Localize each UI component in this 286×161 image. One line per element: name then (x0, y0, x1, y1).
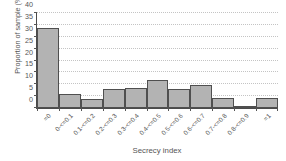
x-axis-tick-label: 0.5-<=0.6 (160, 112, 184, 136)
x-axis-tick-label: 0.8-<=0.9 (226, 112, 250, 136)
x-axis-tick-label: 0.1-<=0.2 (72, 112, 96, 136)
bar (256, 98, 278, 108)
x-axis-tick (103, 108, 104, 111)
y-axis-tick-label: 20 (25, 47, 33, 56)
y-axis-tick-label: 25 (25, 35, 33, 44)
bar-cell (190, 13, 212, 108)
bar-cell (234, 13, 256, 108)
y-axis-tick-label: 35 (25, 11, 33, 20)
y-axis-tick-label: 40 (25, 0, 33, 9)
bar (103, 89, 125, 108)
bar (81, 99, 103, 109)
bar (168, 89, 190, 108)
bar (147, 80, 169, 108)
bar-cell (147, 13, 169, 108)
x-axis-tick-label: 0.6-<=0.7 (182, 112, 206, 136)
x-axis-title: Secrecy index (36, 146, 278, 155)
plot-area: 0510152025303540 (36, 13, 278, 109)
bar-cell (212, 13, 234, 108)
y-axis-tick-label: 30 (25, 23, 33, 32)
x-axis-tick (147, 108, 148, 111)
x-axis-tick-labels: =00-<=0.10.1-<=0.20.2-<=0.30.3-<=0.40.4-… (36, 112, 278, 146)
bar (125, 88, 147, 108)
y-axis-tick-label: 5 (29, 83, 33, 92)
bar (234, 106, 256, 108)
x-axis-tick (256, 108, 257, 111)
x-axis-tick (59, 108, 60, 111)
x-axis-tick-label: 0.2-<=0.3 (94, 112, 118, 136)
x-axis-tick-label: 0.3-<=0.4 (116, 112, 140, 136)
x-axis-tick (190, 108, 191, 111)
x-axis-tick (168, 108, 169, 111)
bar-cell (256, 13, 278, 108)
bar-cell (81, 13, 103, 108)
y-axis-tick-label: 10 (25, 71, 33, 80)
bar-chart-figure: Proportion of sample (%) 051015202530354… (0, 0, 286, 161)
bar (37, 28, 59, 108)
bar (190, 85, 212, 108)
bar-cell (103, 13, 125, 108)
bar (59, 94, 81, 108)
x-axis-tick (81, 108, 82, 111)
bar-cell (37, 13, 59, 108)
x-axis-tick-label: =1 (262, 112, 272, 122)
y-axis-tick-label: 15 (25, 59, 33, 68)
x-axis-tick (212, 108, 213, 111)
x-axis-tick-label: 0.7-<=0.8 (204, 112, 228, 136)
x-axis-tick-label: =0 (42, 112, 52, 122)
x-axis-tick (37, 108, 38, 111)
bar-series (37, 13, 278, 108)
y-axis-title: Proportion of sample (%) (12, 0, 24, 84)
bar-cell (59, 13, 81, 108)
x-axis-tick (277, 108, 278, 111)
bar (212, 98, 234, 108)
x-axis-tick-label: 0-<=0.1 (53, 112, 74, 133)
bar-cell (168, 13, 190, 108)
x-axis-tick-label: 0.4-<=0.5 (138, 112, 162, 136)
x-axis-tick (125, 108, 126, 111)
x-axis-tick (234, 108, 235, 111)
y-axis-tick-label: 0 (29, 95, 33, 104)
bar-cell (125, 13, 147, 108)
